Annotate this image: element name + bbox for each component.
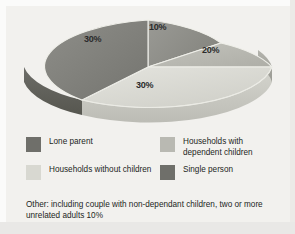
legend-swatch-icon <box>160 137 175 152</box>
legend-item-single-person[interactable]: Single person <box>160 164 276 180</box>
legend-row: Households without children Single perso… <box>26 164 276 180</box>
pie-label-lone-parent: 30% <box>84 34 101 44</box>
pie-chart-plot: 10% 20% 30% 30% <box>6 4 290 130</box>
pie-label-single-person: 10% <box>149 22 166 32</box>
legend-swatch-icon <box>160 165 175 180</box>
chart-legend: Lone parent Households with dependent ch… <box>26 136 276 186</box>
legend-row: Lone parent Households with dependent ch… <box>26 136 276 158</box>
page-edge-bottom <box>0 222 295 234</box>
page-edge-right <box>290 0 295 234</box>
pie-label-dependent-children: 20% <box>202 45 219 55</box>
legend-item-without-children[interactable]: Households without children <box>26 164 160 180</box>
legend-item-lone-parent[interactable]: Lone parent <box>26 136 160 152</box>
chart-footnote: Other: including couple with non-dependa… <box>26 199 274 221</box>
legend-label: Households with dependent children <box>183 136 253 158</box>
legend-swatch-icon <box>26 137 41 152</box>
legend-label: Single person <box>183 164 233 176</box>
pie-label-without-children: 30% <box>136 80 153 90</box>
legend-swatch-icon <box>26 165 41 180</box>
pie-chart-svg <box>6 4 290 130</box>
pie-chart-figure: 10% 20% 30% 30% Lone parent Households w… <box>0 0 295 234</box>
legend-label: Lone parent <box>49 136 93 148</box>
legend-item-dependent-children[interactable]: Households with dependent children <box>160 136 276 158</box>
legend-label: Households without children <box>49 164 151 176</box>
